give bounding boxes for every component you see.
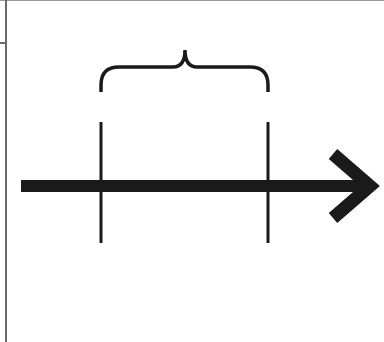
interval-brace bbox=[101, 50, 268, 92]
timeline-arrow bbox=[21, 154, 370, 218]
arrow-shaft bbox=[21, 180, 360, 192]
timeline-diagram bbox=[0, 0, 384, 342]
